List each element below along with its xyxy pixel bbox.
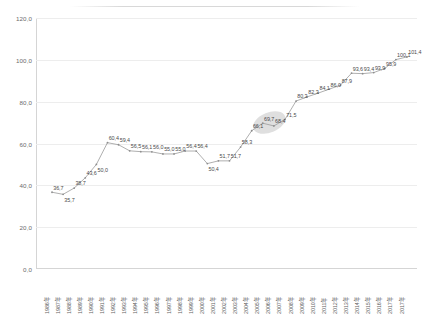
data-point (140, 151, 142, 153)
x-axis-tick-25: 2011年 (320, 298, 328, 314)
data-point (151, 151, 153, 153)
data-label: 93,4 (364, 66, 374, 72)
y-axis-tick-120: 120,0 (16, 15, 32, 22)
data-label: 82,3 (308, 89, 318, 95)
x-axis-tick-10: 1996年 (153, 297, 161, 314)
x-axis-tick-4: 1990年 (87, 297, 95, 314)
x-axis-tick-16: 2002年 (220, 297, 228, 314)
x-axis-tick-18: 2004年 (242, 297, 250, 314)
data-label: 80,3 (297, 93, 307, 99)
data-point (295, 100, 297, 102)
data-point (195, 150, 197, 152)
data-point (162, 153, 164, 155)
y-axis-tick-40: 40,0 (20, 182, 32, 189)
data-label: 56,4 (197, 143, 207, 149)
data-label: 55,0 (164, 146, 174, 152)
x-axis-tick-26: 2012年 (331, 297, 339, 314)
data-point (351, 72, 353, 74)
y-axis-tick-labels: 0,020,040,060,080,0100,0120,0 (0, 18, 34, 269)
data-label: 50,0 (98, 167, 108, 173)
data-label: 56,0 (153, 144, 163, 150)
plot-area: 36,735,738,743,650,060,459,456,556,156,0… (36, 18, 417, 269)
data-label: 71,5 (286, 112, 296, 118)
data-point (62, 193, 64, 195)
x-axis-tick-11: 1997年 (165, 297, 173, 314)
data-label: 66,1 (253, 123, 263, 129)
x-axis-tick-29: 2015年 (364, 297, 372, 314)
data-label: 36,7 (53, 185, 63, 191)
data-label: 56,4 (186, 143, 196, 149)
x-axis-tick-30: 2016年 (375, 297, 383, 314)
data-point (107, 142, 109, 144)
x-axis-tick-27: 2013年 (342, 297, 350, 314)
data-label: 95,9 (386, 61, 396, 67)
y-axis-tick-80: 80,0 (20, 98, 32, 105)
data-label: 60,4 (109, 135, 119, 141)
y-axis-tick-0: 0,0 (23, 266, 32, 273)
data-point (229, 160, 231, 162)
data-label: 56,5 (131, 143, 141, 149)
data-label: 50,4 (209, 166, 219, 172)
data-point (240, 146, 242, 148)
x-axis-tick-32: 2017年 (398, 297, 406, 314)
data-label: 59,4 (120, 137, 130, 143)
data-point (118, 144, 120, 146)
data-point (73, 187, 75, 189)
x-axis-tick-21: 2007年 (275, 297, 283, 314)
data-label: 51,7 (220, 153, 230, 159)
x-axis-tick-23: 2009年 (298, 297, 306, 314)
line-chart: 0,020,040,060,080,0100,0120,0 36,735,738… (0, 0, 429, 314)
x-axis-tick-6: 1992年 (109, 297, 117, 314)
data-series-line (36, 18, 417, 269)
x-axis-tick-12: 1998年 (176, 297, 184, 314)
y-axis-tick-100: 100,0 (16, 56, 32, 63)
x-axis-tick-7: 1993年 (120, 297, 128, 314)
x-axis-tick-14: 2000年 (198, 297, 206, 314)
data-label: 93,9 (375, 65, 385, 71)
x-axis-tick-5: 1991年 (98, 297, 106, 314)
data-point (362, 73, 364, 75)
data-label: 86,0 (331, 82, 341, 88)
data-label: 56,1 (142, 144, 152, 150)
data-label: 51,7 (231, 153, 241, 159)
data-label: 35,7 (64, 197, 74, 203)
data-point (51, 191, 53, 193)
data-label: 69,7 (264, 116, 274, 122)
x-axis-tick-24: 2010年 (309, 297, 317, 314)
data-point (251, 130, 253, 132)
x-axis-tick-17: 2003年 (231, 297, 239, 314)
x-axis-tick-1: 1987年 (54, 297, 62, 314)
x-axis-tick-8: 1994年 (131, 297, 139, 314)
x-axis-tick-3: 1989年 (76, 297, 84, 314)
x-axis-tick-31: 2017年 (386, 297, 394, 314)
data-label: 101,4 (408, 49, 421, 55)
x-axis-tick-13: 1999年 (187, 297, 195, 314)
data-label: 87,9 (342, 78, 352, 84)
x-axis-tick-2: 1988年 (65, 297, 73, 314)
data-point (206, 163, 208, 165)
data-label: 38,7 (75, 180, 85, 186)
data-point (95, 164, 97, 166)
series-path (52, 57, 407, 194)
data-label: 55,0 (175, 146, 185, 152)
data-label: 84,1 (319, 85, 329, 91)
data-label: 68,4 (275, 118, 285, 124)
x-axis-tick-19: 2005年 (253, 297, 261, 314)
data-label: 58,3 (242, 139, 252, 145)
x-axis-tick-0: 1986年 (43, 297, 51, 314)
y-axis-tick-20: 20,0 (20, 224, 32, 231)
x-axis-tick-labels: 1986年1987年1988年1989年1990年1991年1992年1993年… (36, 271, 417, 314)
x-axis-tick-20: 2006年 (264, 297, 272, 314)
data-point (129, 150, 131, 152)
x-axis-tick-15: 2001年 (209, 297, 217, 314)
data-label: 93,6 (353, 66, 363, 72)
data-label: 43,6 (86, 170, 96, 176)
data-point (84, 177, 86, 179)
data-point (173, 153, 175, 155)
y-axis-tick-60: 60,0 (20, 140, 32, 147)
top-divider (70, 6, 360, 7)
x-axis-tick-9: 1995年 (142, 297, 150, 314)
data-point (273, 125, 275, 127)
data-point (218, 160, 220, 162)
x-axis-tick-28: 2014年 (353, 297, 361, 314)
